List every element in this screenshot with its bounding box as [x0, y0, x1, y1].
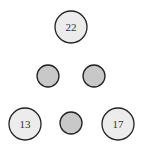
node-bottom-middle: [60, 112, 82, 134]
node-root: 22: [55, 11, 87, 43]
node-circle: [60, 112, 82, 134]
node-bottom-left: 13: [9, 108, 41, 140]
node-mid-right: [83, 65, 105, 87]
node-circle: [37, 65, 59, 87]
node-circle: [83, 65, 105, 87]
node-label: 13: [20, 118, 32, 130]
node-label: 22: [66, 21, 77, 33]
node-label: 17: [113, 118, 125, 130]
tree-diagram: 22 13 17: [0, 0, 141, 150]
node-bottom-right: 17: [102, 108, 134, 140]
node-mid-left: [37, 65, 59, 87]
